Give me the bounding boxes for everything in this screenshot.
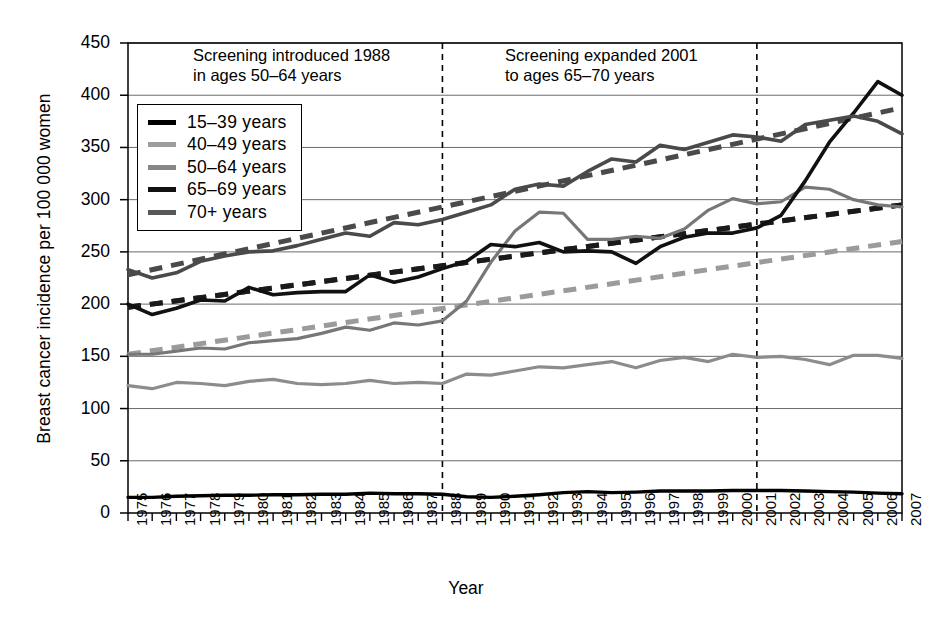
x-tick-label-1996: 1996 (642, 493, 657, 526)
x-tick-label-1980: 1980 (255, 493, 270, 526)
x-tick-label-1992: 1992 (545, 493, 560, 526)
legend-swatch-40-49 (148, 142, 176, 147)
x-tick-label-1988: 1988 (448, 493, 463, 526)
x-tick-label-1977: 1977 (182, 493, 197, 526)
legend-label-50-64: 50–64 years (187, 157, 287, 178)
x-tick-label-1985: 1985 (376, 493, 391, 526)
y-tick-label-200: 200 (54, 295, 110, 313)
x-tick-label-2000: 2000 (739, 493, 754, 526)
legend-item-50-64[interactable]: 50–64 years (148, 156, 287, 179)
x-tick-label-1986: 1986 (400, 493, 415, 526)
x-tick-label-1987: 1987 (424, 493, 439, 526)
x-tick-label-1983: 1983 (328, 493, 343, 526)
legend-label-40-49: 40–49 years (187, 134, 287, 155)
legend-label-65-69: 65–69 years (187, 179, 287, 200)
y-tick-label-50: 50 (54, 452, 110, 470)
x-tick-label-1981: 1981 (279, 493, 294, 526)
legend-label-70plus: 70+ years (187, 202, 267, 223)
legend-swatch-70plus (148, 210, 176, 215)
x-tick-label-1984: 1984 (352, 493, 367, 526)
x-tick-label-2004: 2004 (835, 493, 850, 526)
y-axis-title: Breast cancer incidence per 100 000 wome… (34, 59, 55, 479)
y-tick-label-150: 150 (54, 347, 110, 365)
x-tick-label-2002: 2002 (787, 493, 802, 526)
x-tick-label-1990: 1990 (497, 493, 512, 526)
annotation-screening-introduced: Screening introduced 1988 in ages 50–64 … (193, 45, 390, 85)
x-tick-label-1997: 1997 (666, 493, 681, 526)
x-tick-label-1975: 1975 (134, 493, 149, 526)
x-tick-label-2007: 2007 (908, 493, 923, 526)
chart-legend: 15–39 years 40–49 years 50–64 years 65–6… (137, 104, 302, 231)
y-tick-label-250: 250 (54, 243, 110, 261)
legend-item-40-49[interactable]: 40–49 years (148, 134, 287, 157)
x-axis-title: Year (0, 578, 932, 599)
legend-item-65-69[interactable]: 65–69 years (148, 179, 287, 202)
x-tick-label-1994: 1994 (594, 493, 609, 526)
x-tick-label-1998: 1998 (690, 493, 705, 526)
x-tick-label-1978: 1978 (207, 493, 222, 526)
y-tick-label-300: 300 (54, 191, 110, 209)
legend-label-15-39: 15–39 years (187, 112, 287, 133)
legend-item-15-39[interactable]: 15–39 years (148, 111, 287, 134)
y-tick-label-100: 100 (54, 400, 110, 418)
legend-swatch-65-69 (148, 187, 176, 192)
x-tick-label-1995: 1995 (618, 493, 633, 526)
x-tick-label-1999: 1999 (715, 493, 730, 526)
legend-swatch-15-39 (148, 120, 176, 125)
x-tick-label-1976: 1976 (158, 493, 173, 526)
x-tick-label-2001: 2001 (763, 493, 778, 526)
x-tick-label-1979: 1979 (231, 493, 246, 526)
line-chart-canvas (0, 0, 932, 621)
y-tick-label-0: 0 (54, 504, 110, 522)
y-tick-label-400: 400 (54, 86, 110, 104)
x-tick-label-2005: 2005 (860, 493, 875, 526)
x-tick-label-2006: 2006 (884, 493, 899, 526)
legend-item-70plus[interactable]: 70+ years (148, 201, 287, 224)
y-tick-label-350: 350 (54, 138, 110, 156)
y-tick-label-450: 450 (54, 34, 110, 52)
x-tick-label-1991: 1991 (521, 493, 536, 526)
legend-swatch-50-64 (148, 165, 176, 170)
x-tick-label-1982: 1982 (303, 493, 318, 526)
chart-figure: Breast cancer incidence per 100 000 wome… (0, 0, 932, 621)
x-tick-label-1989: 1989 (473, 493, 488, 526)
x-tick-label-2003: 2003 (811, 493, 826, 526)
annotation-screening-expanded: Screening expanded 2001 to ages 65–70 ye… (505, 45, 698, 85)
x-tick-label-1993: 1993 (569, 493, 584, 526)
